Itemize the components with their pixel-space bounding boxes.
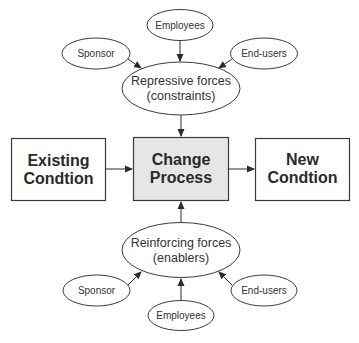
top-employees-label: Employees bbox=[155, 20, 204, 31]
bottom-sponsor-label: Sponsor bbox=[78, 285, 116, 296]
change-process-sublabel: Process bbox=[150, 169, 212, 186]
change-process-label: Change bbox=[152, 151, 211, 168]
bottom-sponsor-node: Sponsor bbox=[63, 275, 130, 306]
existing-condition-box: Existing Condtion bbox=[12, 139, 106, 201]
existing-condition-label: Existing bbox=[27, 152, 89, 169]
repressive-forces-node: Repressive forces (constraints) bbox=[122, 62, 240, 115]
arrow-top-end-users bbox=[219, 59, 232, 68]
bottom-employees-node: Employees bbox=[148, 301, 214, 331]
top-employees-node: Employees bbox=[147, 10, 213, 41]
arrow-top-sponsor bbox=[128, 59, 141, 68]
new-condition-label: New bbox=[286, 151, 319, 168]
repressive-forces-sublabel: (constraints) bbox=[147, 89, 216, 103]
bottom-employees-label: Employees bbox=[156, 310, 205, 321]
top-end-users-node: End-users bbox=[231, 38, 298, 69]
top-end-users-label: End-users bbox=[241, 48, 287, 59]
arrow-bottom-end-users bbox=[219, 272, 232, 285]
reinforcing-forces-sublabel: (enablers) bbox=[153, 251, 209, 265]
new-condition-box: New Condtion bbox=[256, 139, 350, 201]
repressive-forces-label: Repressive forces bbox=[131, 74, 231, 88]
existing-condition-sublabel: Condtion bbox=[23, 170, 93, 187]
reinforcing-forces-node: Reinforcing forces (enablers) bbox=[122, 223, 240, 278]
top-sponsor-label: Sponsor bbox=[77, 48, 115, 59]
change-process-box: Change Process bbox=[134, 138, 229, 201]
reinforcing-forces-label: Reinforcing forces bbox=[131, 236, 232, 250]
new-condition-sublabel: Condtion bbox=[267, 169, 337, 186]
bottom-end-users-node: End-users bbox=[231, 275, 297, 306]
arrow-bottom-sponsor bbox=[128, 272, 141, 285]
force-field-diagram: Employees Sponsor End-users Repressive f… bbox=[0, 0, 359, 343]
bottom-end-users-label: End-users bbox=[241, 285, 287, 296]
top-sponsor-node: Sponsor bbox=[62, 38, 130, 69]
